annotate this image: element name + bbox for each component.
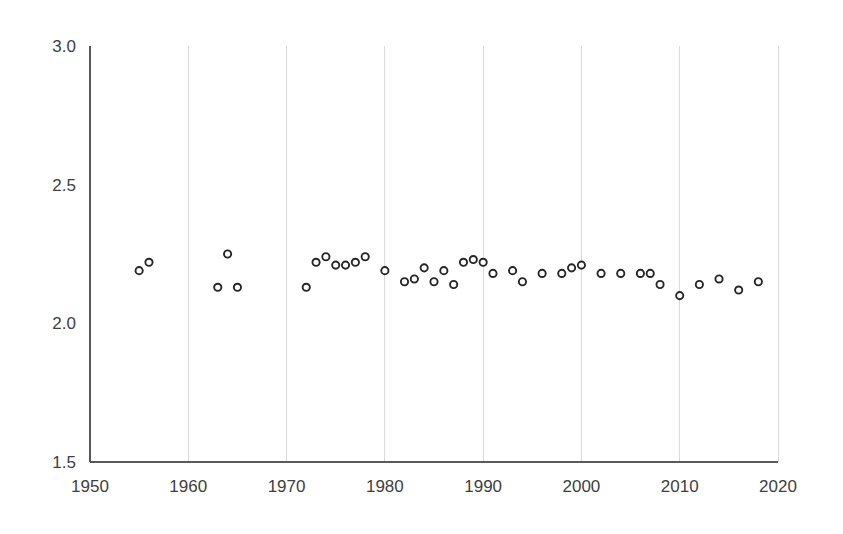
x-tick-label: 2000 xyxy=(563,477,601,496)
data-point xyxy=(715,275,722,282)
data-point xyxy=(558,270,565,277)
x-tick-label: 1960 xyxy=(169,477,207,496)
data-point xyxy=(401,278,408,285)
data-points-group xyxy=(136,250,762,299)
data-point xyxy=(430,278,437,285)
y-tick-label: 2.0 xyxy=(52,314,76,333)
x-tick-label: 1980 xyxy=(366,477,404,496)
data-point xyxy=(755,278,762,285)
x-tick-labels: 19501960197019801990200020102020 xyxy=(71,477,797,496)
x-tick-label: 1950 xyxy=(71,477,109,496)
y-tick-labels: 1.52.02.53.0 xyxy=(52,37,76,472)
data-point xyxy=(519,278,526,285)
data-point xyxy=(509,267,516,274)
data-point xyxy=(578,261,585,268)
x-tick-label: 2010 xyxy=(661,477,699,496)
x-tick-label: 2020 xyxy=(759,477,797,496)
data-point xyxy=(696,281,703,288)
data-point xyxy=(421,264,428,271)
data-point xyxy=(676,292,683,299)
data-point xyxy=(362,253,369,260)
data-point xyxy=(381,267,388,274)
data-point xyxy=(470,256,477,263)
gridlines-group xyxy=(188,46,778,462)
data-point xyxy=(342,261,349,268)
data-point xyxy=(450,281,457,288)
plot-area: 1.52.02.53.0 195019601970198019902000201… xyxy=(0,0,843,534)
y-tick-label: 1.5 xyxy=(52,453,76,472)
data-point xyxy=(647,270,654,277)
data-point xyxy=(539,270,546,277)
data-point xyxy=(322,253,329,260)
scatter-chart: 1.52.02.53.0 195019601970198019902000201… xyxy=(0,0,843,534)
axes-group xyxy=(90,46,778,462)
data-point xyxy=(214,284,221,291)
data-point xyxy=(224,250,231,257)
data-point xyxy=(303,284,310,291)
data-point xyxy=(656,281,663,288)
data-point xyxy=(312,259,319,266)
data-point xyxy=(735,286,742,293)
data-point xyxy=(136,267,143,274)
data-point xyxy=(234,284,241,291)
data-point xyxy=(460,259,467,266)
x-tick-label: 1990 xyxy=(464,477,502,496)
data-point xyxy=(597,270,604,277)
data-point xyxy=(637,270,644,277)
y-tick-label: 3.0 xyxy=(52,37,76,56)
y-tick-label: 2.5 xyxy=(52,176,76,195)
x-tick-label: 1970 xyxy=(268,477,306,496)
data-point xyxy=(489,270,496,277)
data-point xyxy=(352,259,359,266)
data-point xyxy=(145,259,152,266)
data-point xyxy=(617,270,624,277)
data-point xyxy=(568,264,575,271)
data-point xyxy=(440,267,447,274)
data-point xyxy=(411,275,418,282)
data-point xyxy=(332,261,339,268)
data-point xyxy=(480,259,487,266)
